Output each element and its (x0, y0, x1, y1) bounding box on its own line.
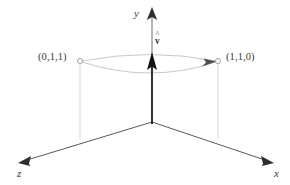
diagram-canvas (0, 0, 290, 185)
x-axis-line (152, 122, 265, 160)
point-label-left: (0,1,1) (38, 52, 67, 63)
upper-arc (82, 55, 216, 62)
x-axis-label: x (274, 168, 279, 179)
vector-label: ^ v (155, 33, 160, 47)
point-label-right: (1,1,0) (226, 52, 255, 63)
z-axis-label: z (17, 168, 21, 179)
vector-symbol: v (155, 37, 160, 47)
point-marker-right (215, 58, 220, 63)
z-axis-line (27, 122, 152, 160)
z-axis-arrowhead (18, 156, 31, 166)
y-axis-label: y (134, 8, 139, 19)
vector-diagram-figure: y x z (0,1,1) (1,1,0) ^ v (0, 0, 290, 185)
x-axis-arrowhead (261, 156, 274, 166)
point-marker-left (77, 58, 82, 63)
